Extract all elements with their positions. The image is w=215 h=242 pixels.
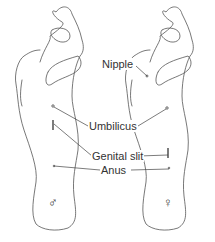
male-umbilicus-marker [52,105,54,107]
label-anus: Anus [100,164,127,176]
label-nipple: Nipple [101,58,134,70]
female-body-outline [125,7,193,230]
umbilicus-leader-male [54,107,88,126]
anus-leader-female [131,169,169,170]
female-umbilicus-marker [166,107,168,109]
female-anus-marker [168,167,170,169]
anus-leader-male [54,166,100,170]
male-symbol: ♂ [48,196,58,210]
nipple-leader [136,66,147,76]
female-symbol: ♀ [163,196,173,210]
label-genital-slit: Genital slit [91,150,144,162]
label-umbilicus: Umbilicus [88,120,138,132]
genital-leader-male [54,124,92,156]
umbilicus-leader-female [138,109,166,126]
